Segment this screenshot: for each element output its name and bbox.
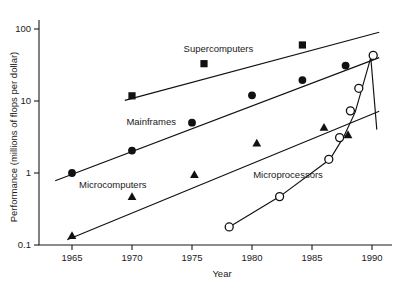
- trend-line: [67, 111, 379, 240]
- series-microcomputers: [67, 111, 379, 240]
- data-point-circle: [128, 147, 136, 155]
- y-tick-label: 100: [15, 23, 31, 34]
- data-point-circle: [299, 76, 307, 84]
- data-point-square: [200, 60, 207, 67]
- data-point-circle: [188, 119, 196, 127]
- data-series: [55, 32, 379, 240]
- data-point-triangle: [128, 192, 137, 200]
- axes: 0.1110100196519701975198019851990: [15, 20, 392, 263]
- y-tick-label: 1: [26, 167, 31, 178]
- series-label-microcomputers: Microcomputers: [79, 179, 147, 190]
- data-point-square: [299, 41, 306, 48]
- series-label-mainframes: Mainframes: [126, 116, 176, 127]
- data-point-circle: [68, 169, 76, 177]
- data-point-open-circle: [346, 107, 354, 115]
- data-point-triangle: [190, 170, 199, 178]
- y-tick-label: 10: [20, 95, 31, 106]
- y-tick-label: 0.1: [18, 239, 31, 250]
- data-point-triangle: [252, 139, 261, 147]
- data-point-open-circle: [325, 155, 333, 163]
- data-point-triangle: [320, 123, 329, 131]
- data-point-circle: [248, 91, 256, 99]
- data-point-square: [128, 92, 135, 99]
- series-label-microprocessors: Microprocessors: [253, 169, 323, 180]
- chart-figure: 0.1110100196519701975198019851990 Superc…: [0, 0, 399, 289]
- data-point-open-circle: [225, 223, 233, 231]
- data-point-circle: [342, 62, 350, 70]
- data-point-open-circle: [369, 51, 377, 59]
- x-tick-label: 1980: [241, 252, 262, 263]
- data-point-open-circle: [355, 84, 363, 92]
- y-axis-title: Performance (millions of flops per dolla…: [8, 52, 19, 223]
- x-axis-title: Year: [212, 268, 231, 279]
- chart-canvas: 0.1110100196519701975198019851990 Superc…: [0, 0, 399, 289]
- x-tick-label: 1985: [301, 252, 322, 263]
- data-point-triangle: [68, 231, 77, 239]
- data-point-open-circle: [336, 134, 344, 142]
- data-point-open-circle: [276, 193, 284, 201]
- x-tick-label: 1975: [181, 252, 202, 263]
- series-label-supercomputers: Supercomputers: [184, 43, 254, 54]
- x-tick-label: 1970: [121, 252, 142, 263]
- x-tick-label: 1990: [361, 252, 382, 263]
- x-tick-label: 1965: [61, 252, 82, 263]
